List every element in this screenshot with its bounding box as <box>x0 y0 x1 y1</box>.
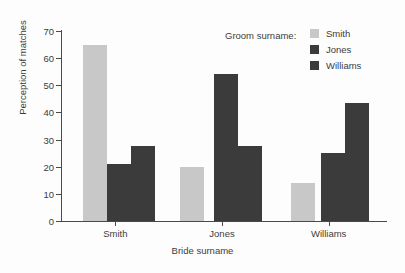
y-tick-label: 0 <box>12 217 54 227</box>
x-axis-title: Bride surname <box>0 245 405 256</box>
bar-smith-smith <box>83 45 107 221</box>
y-tick-mark <box>56 58 61 59</box>
y-tick-mark <box>56 31 61 32</box>
y-tick-label: 10 <box>12 190 54 200</box>
legend-label-smith: Smith <box>326 29 350 39</box>
y-tick-mark <box>56 221 61 222</box>
legend-item-williams: Williams <box>310 61 361 71</box>
x-tick-label-williams: Williams <box>311 228 346 239</box>
x-tick-label-jones: Jones <box>209 228 234 239</box>
x-tick-label-smith: Smith <box>103 228 127 239</box>
x-tick-mark <box>222 222 223 226</box>
y-tick-mark <box>56 112 61 113</box>
bar-williams-smith <box>291 183 315 221</box>
legend-label-williams: Williams <box>326 61 361 71</box>
x-axis-line <box>61 221 387 222</box>
bar-williams-williams <box>345 103 369 221</box>
y-tick-mark <box>56 167 61 168</box>
legend-swatch-williams <box>310 61 319 70</box>
x-tick-mark <box>329 222 330 226</box>
y-tick-mark <box>56 140 61 141</box>
y-tick-mark <box>56 194 61 195</box>
bar-jones-jones <box>214 74 238 221</box>
x-tick-mark <box>115 222 116 226</box>
legend-item-smith: Smith <box>310 29 350 39</box>
y-tick-label: 20 <box>12 163 54 173</box>
legend-label-jones: Jones <box>326 45 351 55</box>
y-axis-title: Perception of matches <box>17 8 28 128</box>
legend-swatch-jones <box>310 45 319 54</box>
bar-jones-smith <box>180 167 204 221</box>
y-tick-mark <box>56 85 61 86</box>
chart-screenshot: 010203040506070 Perception of matches Sm… <box>0 0 405 273</box>
legend-swatch-smith <box>310 29 319 38</box>
legend-title: Groom surname: <box>225 30 296 41</box>
bar-williams-jones <box>321 153 345 221</box>
bar-smith-williams <box>131 146 155 221</box>
y-tick-label: 30 <box>12 136 54 146</box>
bar-smith-jones <box>107 164 131 221</box>
legend-item-jones: Jones <box>310 45 351 55</box>
bar-jones-williams <box>238 146 262 221</box>
